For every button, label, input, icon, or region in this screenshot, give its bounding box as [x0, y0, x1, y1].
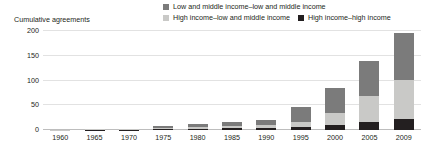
bar-segment[interactable]: [394, 119, 414, 130]
bar-segment[interactable]: [394, 33, 414, 80]
bar-segment[interactable]: [291, 107, 311, 122]
stacked-bar-chart: Low and middle income–low and middle inc…: [0, 0, 428, 152]
y-axis-tick-label: 100: [27, 76, 39, 83]
chart-legend: Low and middle income–low and middle inc…: [163, 2, 425, 24]
legend-swatch-icon: [298, 15, 304, 21]
y-axis-tick-label: 50: [31, 101, 39, 108]
bar-stack[interactable]: [394, 33, 414, 130]
bar-segment[interactable]: [325, 113, 345, 125]
bar-stack[interactable]: [188, 124, 208, 130]
y-axis-title: Cumulative agreements: [14, 15, 90, 24]
legend-label: High income–low and middle income: [173, 14, 290, 22]
bar-segment[interactable]: [222, 128, 242, 130]
bar-segment[interactable]: [188, 129, 208, 130]
bar-segment[interactable]: [291, 127, 311, 130]
bar-stack[interactable]: [85, 129, 105, 130]
legend-item[interactable]: High income–low and middle income: [163, 14, 290, 22]
legend-label: High income–high income: [308, 14, 391, 22]
plot-area: 050100150200 196019651970197519801985199…: [43, 31, 421, 130]
legend-item[interactable]: High income–high income: [298, 14, 391, 22]
bar-segment[interactable]: [325, 125, 345, 130]
bar-segment[interactable]: [256, 128, 276, 130]
x-axis-tick-label: 2009: [384, 134, 424, 142]
bar-stack[interactable]: [291, 107, 311, 130]
legend-item[interactable]: Low and middle income–low and middle inc…: [163, 3, 326, 11]
legend-row: Low and middle income–low and middle inc…: [163, 2, 425, 11]
y-axis-tick-label: 150: [27, 51, 39, 58]
legend-swatch-icon: [163, 4, 169, 10]
bar-segment[interactable]: [394, 80, 414, 119]
bar-stack[interactable]: [222, 122, 242, 130]
legend-row: High income–low and middle incomeHigh in…: [163, 13, 425, 22]
bar-stack[interactable]: [359, 61, 379, 130]
y-axis-tick-label: 0: [35, 126, 39, 133]
legend-swatch-icon: [163, 15, 169, 21]
bar-segment[interactable]: [325, 88, 345, 113]
bar-stack[interactable]: [153, 126, 173, 130]
bar-segment[interactable]: [359, 96, 379, 121]
y-axis-tick-label: 200: [27, 27, 39, 34]
bars-container: [43, 31, 421, 130]
bar-segment[interactable]: [359, 122, 379, 130]
bar-segment[interactable]: [359, 61, 379, 97]
bar-segment[interactable]: [153, 129, 173, 130]
bar-stack[interactable]: [119, 129, 139, 130]
legend-label: Low and middle income–low and middle inc…: [173, 3, 326, 11]
bar-stack[interactable]: [325, 88, 345, 130]
bar-stack[interactable]: [256, 120, 276, 130]
